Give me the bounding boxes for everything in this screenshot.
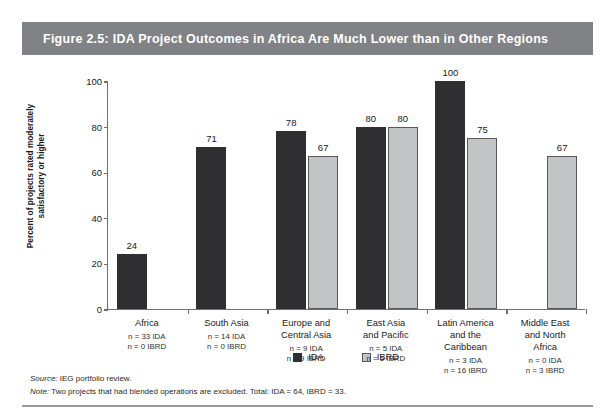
bar-value-label: 78: [271, 117, 311, 128]
y-axis-tick-mark: [104, 173, 108, 174]
bar-slot-ibrd: [228, 82, 258, 309]
footnotes: Source: IEG portfolio review. Note: Two …: [30, 373, 585, 398]
sample-size-line: n = 9 IDA: [266, 344, 346, 354]
category-name-line: Africa: [107, 317, 187, 329]
bar-ida[interactable]: [276, 131, 306, 309]
note-text: Two projects that had blended operations…: [49, 387, 346, 396]
category-name-line: Latin America: [426, 317, 506, 329]
bar-value-label: 24: [112, 240, 152, 251]
category-name-line: and the: [426, 329, 506, 341]
y-axis-tick-mark: [104, 127, 108, 128]
x-axis-tick-mark: [347, 309, 348, 314]
bar-ida[interactable]: [196, 147, 226, 309]
sample-size-line: n = 5 IBRD: [346, 354, 426, 364]
sample-size-line: n = 0 IDA: [505, 356, 585, 366]
sample-size-line: n = 3 IDA: [426, 356, 506, 366]
bar-group-bars: 67: [506, 82, 586, 309]
bar-slot-ibrd: 67: [547, 82, 577, 309]
bar-ibrd[interactable]: [467, 138, 497, 309]
sample-size-line: n = 33 IDA: [107, 332, 187, 342]
plot-inner: 2471786780801007567: [108, 82, 585, 309]
figure-body: Percent of projects rated moderately sat…: [0, 55, 615, 413]
category-name-line: Central Asia: [266, 329, 346, 341]
bar-slot-ida: 78: [276, 82, 306, 309]
bar-slot-ibrd: [149, 82, 179, 309]
category-sample-size: n = 0 IDAn = 3 IBRD: [505, 356, 585, 376]
category-sample-size: n = 3 IDAn = 16 IBRD: [426, 356, 506, 376]
y-axis-tick-mark: [104, 309, 108, 310]
bar-slot-ida: 100: [435, 82, 465, 309]
sample-size-line: n = 14 IDA: [187, 332, 267, 342]
bar-value-label: 67: [303, 142, 343, 153]
sample-size-line: n = 9 IBRD: [266, 354, 346, 364]
bar-group: 8080: [347, 82, 427, 309]
bar-slot-ibrd: 80: [388, 82, 418, 309]
category-sample-size: n = 33 IDAn = 0 IBRD: [107, 332, 187, 352]
note-label: Note:: [30, 387, 49, 396]
category-name-line: East Asia: [346, 317, 426, 329]
category-sample-size: n = 5 IDAn = 5 IBRD: [346, 344, 426, 364]
bar-group: 71: [188, 82, 268, 309]
bar-group: 7867: [267, 82, 347, 309]
bar-ibrd[interactable]: [547, 156, 577, 309]
sample-size-line: n = 3 IBRD: [505, 366, 585, 376]
figure-title-band: Figure 2.5: IDA Project Outcomes in Afri…: [22, 22, 593, 55]
y-axis-tick-mark: [104, 264, 108, 265]
bar-group: 10075: [427, 82, 507, 309]
bar-ida[interactable]: [435, 81, 465, 309]
bar-group: 24: [108, 82, 188, 309]
bar-slot-ida: 24: [117, 82, 147, 309]
bar-group: 67: [506, 82, 586, 309]
x-axis-tick-mark: [427, 309, 428, 314]
category-name-line: and Pacific: [346, 329, 426, 341]
bar-ibrd[interactable]: [388, 127, 418, 309]
x-axis-tick-mark: [188, 309, 189, 314]
y-axis-label-line1: Percent of projects rated moderately: [25, 104, 37, 248]
category-name-line: South Asia: [187, 317, 267, 329]
bottom-divider: [22, 405, 593, 407]
category-sample-size: n = 14 IDAn = 0 IBRD: [187, 332, 267, 352]
page-title: Figure 2.5: IDA Project Outcomes in Afri…: [22, 32, 548, 46]
bar-group-bars: 24: [108, 82, 188, 309]
category-name-line: Africa: [505, 341, 585, 353]
bar-slot-ida: 71: [196, 82, 226, 309]
x-axis-category-label: Latin Americaand theCaribbeann = 3 IDAn …: [426, 317, 506, 376]
x-axis-category-label: Middle Eastand NorthAfrican = 0 IDAn = 3…: [505, 317, 585, 376]
bar-value-label: 100: [430, 67, 470, 78]
y-axis-label: Percent of projects rated moderately sat…: [21, 81, 51, 271]
x-axis-category-label: South Asian = 14 IDAn = 0 IBRD: [187, 317, 267, 352]
bar-slot-ibrd: 67: [308, 82, 338, 309]
bar-group-bars: 7867: [267, 82, 347, 309]
sample-size-line: n = 5 IDA: [346, 344, 426, 354]
bar-ida[interactable]: [117, 254, 147, 309]
category-sample-size: n = 9 IDAn = 9 IBRD: [266, 344, 346, 364]
bar-slot-ida: 80: [356, 82, 386, 309]
x-axis-tick-mark: [586, 309, 587, 314]
x-axis-tick-mark: [506, 309, 507, 314]
y-axis-tick-mark: [104, 218, 108, 219]
source-label: Source:: [30, 374, 58, 383]
bar-slot-ida: [515, 82, 545, 309]
x-axis-category-label: Europe andCentral Asian = 9 IDAn = 9 IBR…: [266, 317, 346, 364]
note-line: Note: Two projects that had blended oper…: [30, 386, 585, 399]
y-axis-tick-mark: [104, 81, 108, 82]
category-name-line: Europe and: [266, 317, 346, 329]
bar-ibrd[interactable]: [308, 156, 338, 309]
bar-value-label: 80: [383, 113, 423, 124]
y-axis-label-line2: satisfactory or higher: [36, 134, 48, 219]
sample-size-line: n = 16 IBRD: [426, 366, 506, 376]
source-text: IEG portfolio review.: [58, 374, 132, 383]
sample-size-line: n = 0 IBRD: [187, 342, 267, 352]
bar-value-label: 67: [542, 142, 582, 153]
x-axis-category-label: East Asiaand Pacificn = 5 IDAn = 5 IBRD: [346, 317, 426, 364]
x-axis-category-label: African = 33 IDAn = 0 IBRD: [107, 317, 187, 352]
bar-group-bars: 71: [188, 82, 268, 309]
bar-group-bars: 10075: [427, 82, 507, 309]
x-axis-tick-mark: [267, 309, 268, 314]
category-name-line: Caribbean: [426, 341, 506, 353]
bar-ida[interactable]: [356, 127, 386, 309]
bar-value-label: 75: [462, 124, 502, 135]
bar-slot-ibrd: 75: [467, 82, 497, 309]
bar-group-bars: 8080: [347, 82, 427, 309]
plot-area: 2471786780801007567 020406080100: [107, 82, 585, 310]
